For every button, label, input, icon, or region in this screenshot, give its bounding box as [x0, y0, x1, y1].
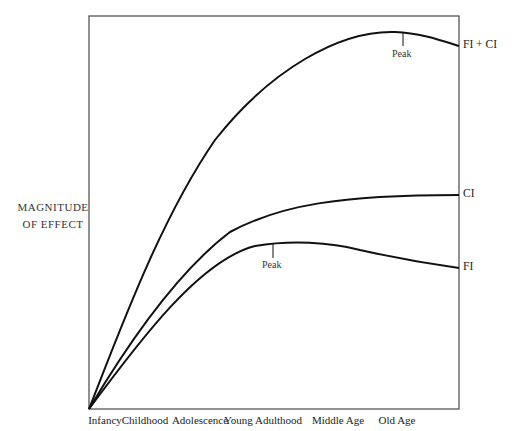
x-tick-adolescence: Adolescence — [172, 414, 228, 426]
plot-frame — [89, 16, 459, 409]
x-tick-old-age: Old Age — [379, 414, 416, 426]
peak-annotation-fi: Peak — [262, 259, 281, 270]
x-tick-infancy: Infancy — [88, 414, 122, 426]
series-label-fi: FI — [463, 260, 473, 272]
y-axis-label: MAGNITUDE OF EFFECT — [14, 199, 92, 233]
line-fi-plus-ci — [89, 32, 459, 409]
series-label-ci: CI — [463, 187, 475, 199]
peak-annotation-fi-plus-ci: Peak — [392, 48, 411, 59]
y-axis-label-line2: OF EFFECT — [14, 216, 92, 233]
x-tick-childhood: Childhood — [122, 414, 168, 426]
y-axis-label-line1: MAGNITUDE — [14, 199, 92, 216]
x-tick-young-adulthood: Young Adulthood — [224, 414, 302, 426]
line-ci — [89, 195, 459, 409]
series-label-fi-plus-ci: FI + CI — [463, 38, 497, 50]
x-tick-middle-age: Middle Age — [312, 414, 364, 426]
